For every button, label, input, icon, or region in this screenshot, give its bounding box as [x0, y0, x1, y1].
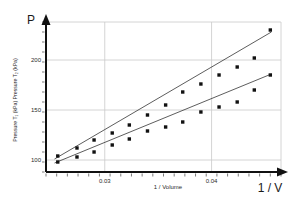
data-point-series-1	[236, 65, 239, 68]
y-axis-arrow-label: P	[27, 13, 35, 27]
data-point-series-1	[111, 131, 114, 134]
y-tick-label-200: 200	[31, 57, 42, 63]
x-tick-label-0.04: 0.04	[206, 178, 218, 184]
data-point-series-2	[181, 120, 184, 123]
x-axis-title: 1 / Volume	[154, 184, 183, 190]
data-point-series-1	[181, 90, 184, 93]
data-point-series-1	[217, 73, 220, 76]
data-point-series-2	[111, 143, 114, 146]
data-point-series-2	[199, 110, 202, 113]
data-point-series-2	[56, 160, 59, 163]
y-tick-label-100: 100	[31, 157, 42, 163]
data-point-series-2	[217, 105, 220, 108]
pressure-vs-inverse-volume-chart: 1001502000.030.04 1 / Volume P 1 / V Pre…	[0, 0, 303, 201]
data-point-series-2	[75, 155, 78, 158]
chart-canvas: 1001502000.030.04 1 / Volume P 1 / V Pre…	[0, 0, 303, 201]
data-point-series-2	[128, 137, 131, 140]
y-axis-title: Pressure T₁ (kPa) Pressure T₂ (kPa)	[12, 58, 18, 142]
data-point-series-2	[269, 73, 272, 76]
data-point-series-2	[92, 150, 95, 153]
data-point-series-1	[164, 103, 167, 106]
data-point-series-1	[269, 28, 272, 31]
data-point-series-2	[253, 88, 256, 91]
data-point-series-2	[164, 125, 167, 128]
data-point-series-1	[92, 138, 95, 141]
x-axis-arrow-label: 1 / V	[258, 181, 283, 195]
data-point-series-1	[75, 146, 78, 149]
data-point-series-1	[199, 82, 202, 85]
data-point-series-2	[236, 100, 239, 103]
data-point-series-1	[146, 113, 149, 116]
data-point-series-1	[56, 154, 59, 157]
data-point-series-2	[146, 129, 149, 132]
data-point-series-1	[253, 56, 256, 59]
data-point-series-1	[128, 123, 131, 126]
y-tick-label-150: 150	[31, 107, 42, 113]
x-tick-label-0.03: 0.03	[99, 178, 111, 184]
